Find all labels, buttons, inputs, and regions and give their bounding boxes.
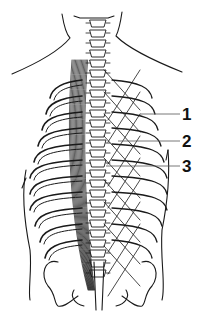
rib-left	[45, 240, 82, 258]
vertebra	[90, 100, 106, 107]
ribcage-right	[112, 80, 167, 258]
vertebra	[90, 30, 106, 37]
rib-right	[112, 96, 155, 114]
rib-right	[112, 176, 167, 194]
callout-label-3: 3	[182, 157, 191, 176]
vertebra	[90, 230, 106, 237]
vertebra	[90, 170, 106, 177]
fascicle	[108, 92, 140, 142]
vertebra	[90, 220, 106, 227]
vertebra	[90, 160, 106, 167]
rib-right	[112, 192, 167, 210]
fascicle	[108, 158, 140, 208]
vertebra	[90, 210, 106, 217]
vertebra	[90, 180, 106, 187]
fascicle	[108, 224, 140, 274]
back-anatomy-illustration: 1 2 3	[0, 0, 203, 324]
vertebra	[90, 130, 106, 137]
fascicle	[108, 114, 140, 164]
vertebra	[90, 200, 106, 207]
vertebra	[90, 240, 106, 247]
vertebra	[90, 110, 106, 117]
vertebra	[90, 190, 106, 197]
vertebra	[90, 20, 106, 27]
vertebral-column	[86, 20, 110, 277]
erector-spinae-left	[69, 60, 94, 290]
fascicle	[104, 70, 140, 110]
callout-label-1: 1	[182, 105, 191, 124]
vertebra	[90, 70, 106, 77]
fascicle	[108, 180, 140, 230]
callout-label-2: 2	[182, 132, 191, 151]
vertebra	[90, 150, 106, 157]
vertebra	[90, 90, 106, 97]
vertebra	[90, 40, 106, 47]
vertebra	[90, 50, 106, 57]
rib-right	[112, 112, 158, 130]
vertebra	[90, 120, 106, 127]
vertebra	[90, 60, 106, 67]
vertebra	[90, 140, 106, 147]
fascicle	[108, 246, 140, 296]
rib-left	[34, 144, 82, 162]
vertebra	[90, 250, 106, 257]
vertebra	[90, 80, 106, 87]
